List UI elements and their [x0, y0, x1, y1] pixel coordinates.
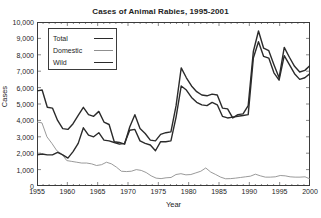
y-tick-label: 1,000: [16, 166, 34, 173]
x-axis-tick-labels: 1955196019651970197519801985199019952000: [37, 188, 310, 200]
y-tick-label: 7,000: [16, 68, 34, 75]
x-tick-label: 1955: [29, 188, 45, 195]
chart-legend: Total Domestic Wild: [48, 28, 117, 70]
x-tick-label: 1965: [90, 188, 106, 195]
legend-swatch-domestic-icon: [94, 50, 113, 51]
chart-title: Cases of Animal Rabies, 1995-2001: [0, 7, 321, 16]
legend-swatch-total-icon: [94, 38, 113, 39]
x-tick-label: 1970: [120, 188, 136, 195]
y-tick-label: 9,000: [16, 35, 34, 42]
y-tick-label: 10,000: [13, 19, 34, 26]
x-tick-label: 1985: [211, 188, 227, 195]
legend-label-total: Total: [53, 35, 68, 42]
legend-swatch-wild-icon: [94, 62, 113, 63]
y-tick-label: 5,000: [16, 101, 34, 108]
legend-item-wild: Wild: [53, 56, 114, 68]
y-tick-label: 3,000: [16, 133, 34, 140]
x-tick-label: 2000: [302, 188, 318, 195]
legend-item-total: Total: [53, 32, 114, 44]
y-tick-label: 6,000: [16, 84, 34, 91]
chart-page: Cases of Animal Rabies, 1995-2001 Cases …: [0, 0, 321, 218]
x-tick-label: 1995: [272, 188, 288, 195]
x-tick-label: 1990: [242, 188, 258, 195]
y-tick-label: 8,000: [16, 51, 34, 58]
y-tick-label: 4,000: [16, 117, 34, 124]
legend-item-domestic: Domestic: [53, 44, 114, 56]
x-axis-title: Year: [37, 200, 310, 209]
y-axis-tick-labels: 01,0002,0003,0004,0005,0006,0007,0008,00…: [0, 22, 34, 186]
x-tick-label: 1960: [60, 188, 76, 195]
legend-label-domestic: Domestic: [53, 47, 82, 54]
y-tick-label: 2,000: [16, 150, 34, 157]
x-tick-label: 1980: [181, 188, 197, 195]
legend-label-wild: Wild: [53, 59, 67, 66]
x-tick-label: 1975: [151, 188, 167, 195]
